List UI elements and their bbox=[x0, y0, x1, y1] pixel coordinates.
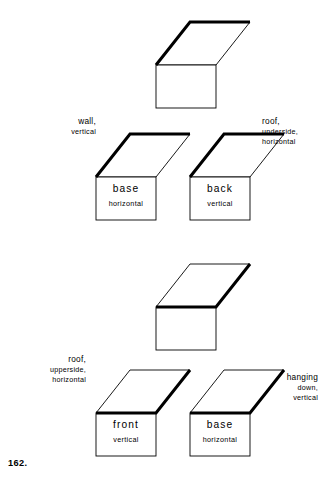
annotation-line-2: underside, bbox=[262, 127, 322, 138]
annotation-line-3: horizontal bbox=[262, 137, 322, 148]
front-face bbox=[156, 307, 216, 350]
top-face bbox=[96, 370, 190, 413]
face-label-row4-left: front vertical bbox=[96, 418, 156, 446]
annotation-line-1: roof, bbox=[14, 354, 86, 365]
top-face bbox=[156, 22, 250, 65]
top-face bbox=[156, 264, 250, 307]
annotation-wall: wall, vertical bbox=[34, 116, 96, 137]
box-diagram-row1-single bbox=[148, 10, 258, 110]
face-label-row2-right: back vertical bbox=[190, 182, 250, 210]
annotation-line-1: wall, bbox=[34, 116, 96, 127]
face-label-name: base bbox=[190, 418, 250, 431]
face-label-orient: vertical bbox=[190, 198, 250, 210]
face-label-row2-left: base horizontal bbox=[96, 182, 156, 210]
annotation-line-1: hanging bbox=[258, 372, 318, 383]
annotation-line-2: down, bbox=[258, 383, 318, 394]
annotation-line-3: horizontal bbox=[14, 375, 86, 386]
face-label-name: base bbox=[96, 182, 156, 195]
annotation-line-2: vertical bbox=[34, 127, 96, 138]
face-label-row4-right: base horizontal bbox=[190, 418, 250, 446]
annotation-line-2: upperside, bbox=[14, 365, 86, 376]
annotation-hanging-down: hanging down, vertical bbox=[258, 372, 318, 404]
face-label-name: back bbox=[190, 182, 250, 195]
box-svg bbox=[148, 10, 258, 110]
box-diagram-row3-single bbox=[148, 252, 258, 352]
figure-number: 162. bbox=[8, 458, 27, 468]
face-label-orient: horizontal bbox=[96, 198, 156, 210]
top-face bbox=[96, 134, 190, 177]
face-label-name: front bbox=[96, 418, 156, 431]
box-svg bbox=[148, 252, 258, 352]
face-label-orient: horizontal bbox=[190, 434, 250, 446]
annotation-line-3: vertical bbox=[258, 393, 318, 404]
annotation-roof-upperside: roof, upperside, horizontal bbox=[14, 354, 86, 386]
annotation-roof-underside: roof, underside, horizontal bbox=[262, 116, 322, 148]
front-face bbox=[156, 65, 216, 108]
face-label-orient: vertical bbox=[96, 434, 156, 446]
figure-page: base horizontal back vertical wall, vert… bbox=[0, 0, 323, 483]
annotation-line-1: roof, bbox=[262, 116, 322, 127]
